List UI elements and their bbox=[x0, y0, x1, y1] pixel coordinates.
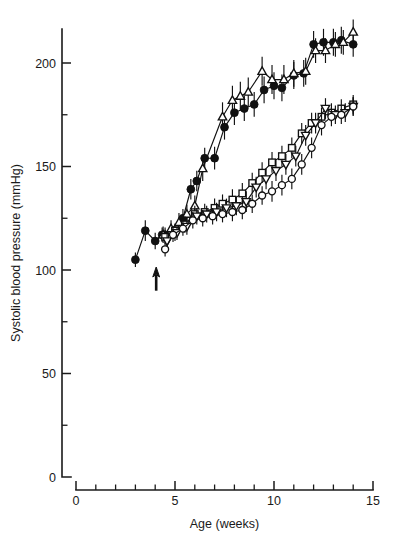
y-tick-label: 150 bbox=[35, 160, 56, 174]
marker-open-triangle-up bbox=[321, 46, 329, 54]
marker-open-square bbox=[239, 190, 246, 197]
series-polyline bbox=[163, 32, 353, 235]
marker-open-circle bbox=[328, 113, 335, 120]
marker-open-triangle-down bbox=[292, 153, 300, 161]
marker-open-circle bbox=[318, 122, 325, 129]
marker-open-square bbox=[269, 159, 276, 166]
marker-open-triangle-up bbox=[199, 164, 207, 172]
y-axis-spine bbox=[62, 29, 71, 477]
marker-open-triangle-down bbox=[252, 184, 260, 192]
marker-open-square bbox=[259, 169, 266, 176]
y-axis-title: Systolic blood pressure (mmHg) bbox=[9, 164, 23, 342]
marker-open-circle bbox=[199, 215, 206, 222]
marker-open-circle bbox=[338, 111, 345, 118]
y-tick-label: 50 bbox=[42, 367, 56, 381]
marker-filled-circle bbox=[260, 86, 268, 94]
marker-open-circle bbox=[298, 161, 305, 168]
marker-filled-circle bbox=[231, 109, 239, 117]
x-axis-title: Age (weeks) bbox=[190, 517, 259, 531]
marker-open-triangle-up bbox=[268, 75, 276, 83]
marker-open-circle bbox=[239, 206, 246, 213]
marker-filled-circle bbox=[221, 123, 229, 131]
marker-filled-circle bbox=[132, 256, 140, 264]
marker-open-triangle-up bbox=[349, 28, 357, 36]
marker-open-circle bbox=[278, 182, 285, 189]
marker-open-circle bbox=[308, 144, 315, 151]
marker-open-circle bbox=[219, 211, 226, 218]
x-axis: 051015 bbox=[73, 481, 380, 508]
treatment-arrow bbox=[153, 267, 160, 291]
series-polyline bbox=[135, 40, 353, 259]
marker-filled-circle bbox=[187, 185, 195, 193]
y-tick-label: 0 bbox=[49, 471, 56, 485]
blood-pressure-line-chart: 050100150200 051015 Systolic blood press… bbox=[0, 0, 393, 541]
marker-open-triangle-up bbox=[244, 88, 252, 96]
marker-open-circle bbox=[229, 209, 236, 216]
marker-open-circle bbox=[249, 200, 256, 207]
marker-open-circle bbox=[209, 213, 216, 220]
marker-filled-circle bbox=[211, 154, 219, 162]
series-open-circle-series bbox=[162, 97, 357, 256]
marker-open-circle bbox=[162, 246, 169, 253]
marker-open-circle bbox=[189, 217, 196, 224]
x-tick-label: 15 bbox=[366, 494, 380, 508]
marker-open-circle bbox=[179, 225, 186, 232]
marker-open-triangle-up bbox=[258, 67, 266, 75]
axis-title-group: Systolic blood pressure (mmHg)Age (weeks… bbox=[9, 164, 259, 531]
marker-open-circle bbox=[259, 192, 266, 199]
marker-open-square bbox=[289, 145, 296, 152]
x-tick-label: 0 bbox=[73, 494, 80, 508]
marker-filled-circle bbox=[320, 38, 328, 46]
marker-open-circle bbox=[288, 175, 295, 182]
x-tick-label: 10 bbox=[267, 494, 281, 508]
marker-open-circle bbox=[170, 231, 177, 238]
annotation-group bbox=[153, 267, 160, 291]
marker-open-triangle-up bbox=[218, 112, 226, 120]
marker-open-triangle-down bbox=[272, 168, 280, 176]
marker-filled-circle bbox=[141, 227, 149, 235]
marker-open-triangle-up bbox=[280, 75, 288, 83]
series-open-triangle-up-series bbox=[159, 20, 357, 244]
x-tick-label: 5 bbox=[172, 494, 179, 508]
marker-open-triangle-down bbox=[163, 238, 171, 246]
marker-open-circle bbox=[269, 188, 276, 195]
y-tick-label: 200 bbox=[35, 57, 56, 71]
marker-filled-circle bbox=[240, 105, 248, 113]
marker-open-square bbox=[229, 196, 236, 203]
marker-open-triangle-down bbox=[282, 161, 290, 169]
series-group bbox=[132, 20, 358, 267]
y-axis: 050100150200 bbox=[35, 29, 71, 485]
marker-open-circle bbox=[350, 103, 357, 110]
marker-open-square bbox=[279, 153, 286, 160]
figure-root: 050100150200 051015 Systolic blood press… bbox=[0, 0, 393, 541]
marker-filled-circle bbox=[151, 237, 159, 245]
marker-filled-circle bbox=[250, 101, 258, 109]
marker-open-triangle-down bbox=[262, 176, 270, 184]
y-tick-label: 100 bbox=[35, 264, 56, 278]
marker-filled-circle bbox=[278, 84, 286, 92]
